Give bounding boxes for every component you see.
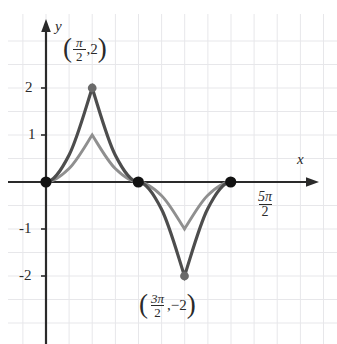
- fraction-denominator: 2: [151, 305, 164, 319]
- fraction-numerator: π: [74, 36, 85, 49]
- fraction-numerator: 3π: [149, 292, 166, 305]
- y-tick-label-minus-2: -2: [19, 268, 32, 283]
- fraction-numerator: 5π: [256, 190, 274, 204]
- annotation-y-value: 2: [90, 42, 98, 57]
- annotation-y-value: −2: [171, 298, 187, 313]
- open-paren: (: [139, 294, 148, 315]
- fraction-denominator: 2: [73, 49, 86, 63]
- close-paren: ): [98, 38, 107, 59]
- y-tick-label-minus-1: -1: [19, 221, 32, 236]
- point-max-pi-over-2: [88, 84, 97, 93]
- fraction-3pi-over-2: 3π 2: [149, 292, 166, 320]
- close-paren: ): [187, 294, 196, 315]
- y-tick-label-1: 1: [28, 127, 36, 142]
- fraction-5pi-over-2: 5π 2: [256, 190, 274, 220]
- point-min-3pi-over-2: [180, 272, 189, 281]
- point-origin: [40, 176, 51, 187]
- y-axis-arrowhead: [41, 19, 51, 32]
- y-tick-label-2: 2: [25, 80, 33, 95]
- x-axis-arrowhead: [306, 177, 319, 187]
- point-two-pi: [225, 176, 236, 187]
- open-paren: (: [63, 38, 72, 59]
- annotation-min-point: ( 3π 2 , −2 ): [139, 292, 196, 320]
- fraction-denominator: 2: [259, 204, 272, 219]
- x-axis-label: x: [297, 152, 304, 167]
- fraction-pi-over-2: π 2: [73, 36, 86, 64]
- x-annotation-5pi-over-2: 5π 2: [255, 190, 275, 220]
- trig-graph-figure: y x 2 1 -1 -2 ( π 2 , 2 ) ( 3π 2 , −2 ) …: [0, 0, 337, 344]
- point-pi: [133, 176, 144, 187]
- y-axis-label: y: [55, 19, 62, 34]
- annotation-max-point: ( π 2 , 2 ): [63, 36, 107, 64]
